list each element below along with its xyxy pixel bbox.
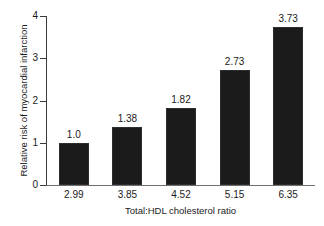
plot-area: 1.01.381.822.733.73 (47, 16, 315, 185)
y-axis-tick-label: 1 (4, 138, 38, 148)
y-axis-tick-label: 4 (4, 11, 38, 21)
x-axis-title: Total:HDL cholesterol ratio (46, 205, 315, 217)
x-axis-tick-labels: 2.993.854.525.156.35 (47, 189, 315, 203)
bar-group: 1.82 (166, 16, 196, 185)
y-axis-tick-labels: 01234 (0, 0, 38, 226)
bar-value-label: 1.82 (156, 95, 206, 105)
bar (220, 70, 250, 185)
bar-group: 1.0 (59, 16, 89, 185)
y-axis-tick-label: 3 (4, 53, 38, 63)
y-axis-tick-mark (40, 58, 46, 59)
bar (166, 108, 196, 185)
x-axis-line (46, 185, 315, 186)
y-axis-tick-mark (40, 143, 46, 144)
bar-value-label: 1.0 (49, 130, 99, 140)
y-axis-tick-mark (40, 101, 46, 102)
y-axis-tick-label: 2 (4, 96, 38, 106)
bar-group: 3.73 (273, 16, 303, 185)
y-axis-tick-label: 0 (4, 180, 38, 190)
bar-group: 1.38 (112, 16, 142, 185)
x-axis-tick-label: 6.35 (256, 189, 320, 201)
y-axis-tick-mark (40, 16, 46, 17)
bar-value-label: 3.73 (263, 14, 313, 24)
bar-group: 2.73 (220, 16, 250, 185)
bar (59, 143, 89, 185)
bar (273, 27, 303, 185)
bar (112, 127, 142, 185)
bar-value-label: 2.73 (210, 57, 260, 67)
bar-value-label: 1.38 (102, 114, 152, 124)
y-axis-tick-mark (40, 185, 46, 186)
bar-chart-figure: Relative risk of myocardial infarction 0… (0, 0, 324, 226)
